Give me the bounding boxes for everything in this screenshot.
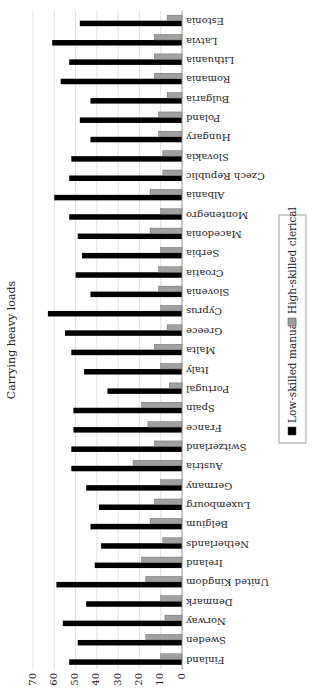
bar-low-skilled-manual-latvia [52,40,182,46]
bar-low-skilled-manual-montenegro [69,214,182,220]
bar-high-skilled-clerical-poland [159,112,182,118]
x-tick-label: Slovakia [186,152,229,163]
bar-low-skilled-manual-united-kingdom [56,582,182,588]
x-tick-label: Ireland [185,558,222,569]
bar-low-skilled-manual-albania [54,195,182,201]
bar-high-skilled-clerical-slovenia [159,286,182,292]
x-axis-labels: FinlandSwedenNorwayDenmarkUnited Kingdom… [185,16,269,666]
bar-low-skilled-manual-lithuania [69,59,182,65]
bar-high-skilled-clerical-austria [133,460,182,466]
bar-high-skilled-clerical-malta [154,344,182,350]
bar-low-skilled-manual-slovenia [90,292,182,298]
x-tick-label: Serbia [186,248,219,259]
bar-low-skilled-manual-ireland [95,563,182,569]
bar-high-skilled-clerical-spain [142,402,182,408]
y-axis-ticks: 010203040506070 [27,673,187,686]
x-tick-label: Hungary [186,132,231,143]
bar-low-skilled-manual-belgium [90,524,182,530]
bar-high-skilled-clerical-hungary [159,131,182,137]
gridlines [33,11,182,669]
x-tick-label: Montenegro [186,210,248,221]
bar-high-skilled-clerical-norway [165,615,182,621]
bar-high-skilled-clerical-cyprus [161,305,182,311]
x-tick-label: Macedonia [186,229,242,240]
bar-low-skilled-manual-portugal [108,388,183,394]
bars [48,11,182,669]
x-tick-label: Poland [185,113,220,124]
bar-high-skilled-clerical-albania [150,189,182,195]
legend: Low-skilled manual High-skilled clerical [279,206,306,443]
bar-low-skilled-manual-france [73,427,182,433]
bar-high-skilled-clerical-germany [161,480,182,486]
bar-low-skilled-manual-bulgaria [90,98,182,104]
bar-high-skilled-clerical-luxembourg [154,499,182,505]
x-tick-label: Italy [186,365,209,376]
x-tick-label: Sweden [185,635,226,646]
x-tick-label: Cyprus [186,306,222,317]
x-tick-label: Malta [186,345,215,356]
bar-high-skilled-clerical-portugal [169,383,182,389]
x-tick-label: Denmark [185,597,233,608]
x-tick-label: Estonia [186,16,224,27]
bar-low-skilled-manual-switzerland [71,446,182,452]
legend-label-high-skilled-clerical: High-skilled clerical [286,206,298,314]
bar-high-skilled-clerical-estonia [167,15,182,21]
bar-low-skilled-manual-austria [71,466,182,472]
bar-high-skilled-clerical-sweden [146,634,182,640]
bar-chart: Carrying heavy loads 010203040506070 Fin… [0,0,322,689]
bar-low-skilled-manual-luxembourg [99,505,182,511]
legend-swatch-low-skilled-manual [288,427,296,435]
bar-high-skilled-clerical-ireland [142,557,182,563]
legend-swatch-high-skilled-clerical [288,318,296,326]
bar-low-skilled-manual-spain [73,408,182,414]
bar-high-skilled-clerical-lithuania [154,54,182,60]
bar-high-skilled-clerical-greece [167,325,182,331]
bar-high-skilled-clerical-denmark [161,596,182,602]
y-tick-label: 0 [176,673,187,679]
bar-high-skilled-clerical-serbia [161,247,182,253]
bar-low-skilled-manual-hungary [90,137,182,143]
x-tick-label: Germany [186,481,233,492]
x-tick-label: Spain [185,403,214,414]
bar-high-skilled-clerical-switzerland [154,441,182,447]
bar-low-skilled-manual-croatia [76,272,182,278]
x-tick-label: Greece [186,326,222,337]
y-tick-label: 20 [133,673,144,686]
x-tick-label: Latvia [186,36,217,47]
bar-high-skilled-clerical-france [148,422,182,428]
bar-low-skilled-manual-denmark [86,601,182,607]
x-tick-label: Switzerland [185,442,246,453]
x-tick-label: Albania [186,190,225,201]
bar-high-skilled-clerical-slovakia [163,151,182,157]
bar-high-skilled-clerical-finland [161,654,182,660]
bar-high-skilled-clerical-netherlands [163,538,182,544]
x-tick-label: Portugal [186,384,229,395]
y-tick-label: 70 [27,673,38,686]
x-tick-label: France [186,423,222,434]
bar-high-skilled-clerical-romania [154,73,182,79]
y-tick-label: 10 [154,673,165,686]
x-tick-label: Croatia [186,268,224,279]
bar-low-skilled-manual-greece [65,330,182,336]
bar-high-skilled-clerical-bulgaria [167,93,182,99]
chart-title: Carrying heavy loads [5,280,18,399]
y-tick-label: 40 [90,673,101,686]
bar-low-skilled-manual-serbia [82,253,182,259]
x-tick-label: Romania [186,74,231,85]
bar-low-skilled-manual-macedonia [78,234,182,240]
bar-low-skilled-manual-poland [80,117,182,123]
x-tick-label: Netherlands [186,539,249,550]
y-tick-label: 60 [48,673,59,686]
bar-low-skilled-manual-netherlands [101,543,182,549]
y-tick-label: 30 [112,673,123,686]
bar-low-skilled-manual-estonia [80,21,182,27]
bar-high-skilled-clerical-united-kingdom [146,576,182,582]
x-tick-label: United Kingdom [185,577,269,588]
bar-low-skilled-manual-romania [61,79,182,85]
bar-low-skilled-manual-slovakia [71,156,182,162]
bar-high-skilled-clerical-belgium [150,518,182,524]
bar-high-skilled-clerical-czech-republic [163,170,182,176]
x-tick-label: Bulgaria [186,94,229,105]
x-tick-label: Lithuania [186,55,234,66]
chart-container: Carrying heavy loads 010203040506070 Fin… [0,0,322,689]
